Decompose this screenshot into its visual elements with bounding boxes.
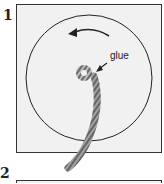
panel-2	[17, 181, 162, 184]
diagram	[0, 0, 164, 183]
glue-label: glue	[110, 51, 129, 61]
rope-coil-icon	[76, 65, 92, 81]
